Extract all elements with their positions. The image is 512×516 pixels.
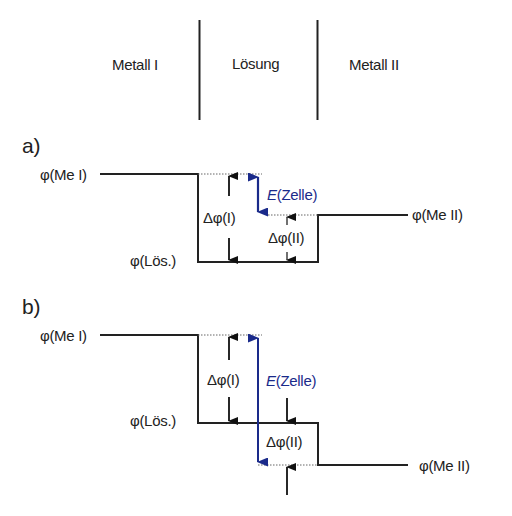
e-cell-symbol: E	[266, 372, 276, 389]
delta-phi-2-label: Δφ(II)	[268, 230, 304, 245]
delta-phi-1-label: Δφ(I)	[203, 210, 235, 225]
panel-a-label: a)	[22, 135, 40, 156]
e-cell-text: (Zelle)	[276, 372, 316, 389]
panel-b-label: b)	[22, 296, 40, 317]
e-cell-label: E(Zelle)	[266, 373, 316, 388]
e-cell-label: E(Zelle)	[267, 187, 317, 202]
phi-me2-label: φ(Me II)	[412, 207, 463, 222]
phi-loes-label: φ(Lös.)	[130, 253, 176, 268]
diagram-lines	[0, 0, 512, 516]
phi-me2-label: φ(Me II)	[419, 458, 470, 473]
region-label-metall-1: Metall I	[112, 57, 158, 72]
delta-phi-2-label: Δφ(II)	[266, 434, 302, 449]
delta-phi-1-label: Δφ(I)	[207, 372, 239, 387]
region-label-loesung: Lösung	[232, 56, 279, 71]
potential-diagram: Metall I Lösung Metall II a) φ(Me I) φ(L…	[0, 0, 512, 516]
phi-me1-label: φ(Me I)	[40, 167, 87, 182]
region-label-metall-2: Metall II	[349, 57, 399, 72]
e-cell-symbol: E	[267, 186, 277, 203]
phi-me1-label: φ(Me I)	[40, 328, 87, 343]
phi-loes-label: φ(Lös.)	[130, 413, 176, 428]
e-cell-text: (Zelle)	[277, 186, 317, 203]
